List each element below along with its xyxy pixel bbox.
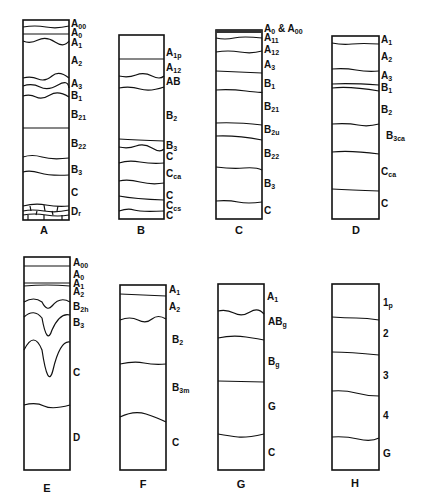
svg-text:B2: B2 (172, 334, 183, 346)
profile-f-caption: F (140, 478, 147, 490)
svg-text:1p: 1p (383, 297, 393, 310)
soil-profiles-figure: A00 A0 A1 A2 A3 B1 B21 B22 B3 C Dr A A1p… (0, 0, 425, 501)
svg-text:A12: A12 (166, 62, 181, 74)
profile-f-column (120, 285, 166, 470)
svg-text:A3: A3 (381, 70, 392, 82)
svg-text:B3: B3 (71, 164, 82, 176)
profile-a: A00 A0 A1 A2 A3 B1 B21 B22 B3 C Dr A (23, 18, 86, 236)
svg-text:C: C (166, 210, 173, 221)
profile-d: A1 A2 A3 B1 B2 B3ca Cca C D (332, 34, 405, 236)
svg-text:A00: A00 (73, 257, 88, 269)
profile-h-column (332, 284, 379, 470)
svg-text:C: C (71, 187, 78, 198)
svg-text:G: G (383, 448, 391, 459)
svg-text:A3: A3 (71, 78, 82, 90)
svg-text:B1: B1 (71, 90, 82, 102)
profile-f: A1 A2 B2 B3m C F (120, 284, 189, 490)
svg-text:C: C (268, 447, 275, 458)
svg-text:B2u: B2u (264, 124, 279, 136)
bedrock-pattern (23, 204, 69, 220)
svg-text:A1: A1 (169, 284, 180, 296)
profile-e: A00 A0 A1 A2 B2h B3 C D E (24, 257, 88, 494)
profile-e-column (24, 257, 70, 470)
profile-g-caption: G (237, 478, 246, 490)
svg-text:A2: A2 (71, 55, 82, 67)
svg-text:Cca: Cca (381, 166, 396, 178)
svg-text:C: C (166, 151, 173, 162)
svg-text:B1: B1 (381, 82, 392, 94)
svg-text:C: C (264, 205, 271, 216)
svg-text:3: 3 (383, 370, 389, 381)
profile-d-caption: D (352, 224, 360, 236)
svg-text:Cca: Cca (166, 168, 181, 180)
svg-text:B2: B2 (381, 104, 392, 116)
svg-text:A1: A1 (381, 34, 392, 46)
profile-e-caption: E (43, 482, 50, 494)
svg-text:D: D (73, 432, 80, 443)
profile-h: 1p 2 3 4 G H (332, 284, 393, 489)
svg-text:A3: A3 (264, 59, 275, 71)
profile-c-caption: C (235, 224, 243, 236)
profile-d-column (332, 36, 379, 219)
svg-text:AB: AB (166, 76, 180, 87)
profile-b-caption: B (137, 224, 145, 236)
svg-text:2: 2 (383, 328, 389, 339)
svg-text:B21: B21 (264, 101, 279, 113)
svg-text:ABg: ABg (268, 316, 287, 329)
profile-g-column (218, 284, 264, 470)
profile-a-caption: A (40, 224, 48, 236)
svg-text:A2: A2 (381, 51, 392, 63)
svg-text:C: C (172, 437, 179, 448)
svg-text:A12: A12 (264, 44, 279, 56)
profile-c: A0 & A00 A11 A12 A3 B1 B21 B2u B22 B3 C … (216, 23, 303, 236)
svg-text:B22: B22 (71, 138, 86, 150)
svg-text:A2: A2 (169, 301, 180, 313)
svg-text:B3: B3 (264, 178, 275, 190)
svg-text:Dr: Dr (71, 206, 81, 217)
svg-text:B22: B22 (264, 148, 279, 160)
organic-layer-fill (216, 30, 262, 33)
svg-text:B2: B2 (166, 110, 177, 122)
svg-text:A1p: A1p (166, 47, 181, 60)
svg-text:B2h: B2h (73, 301, 88, 313)
svg-text:4: 4 (383, 410, 389, 421)
svg-text:B3: B3 (73, 317, 84, 329)
svg-text:Bg: Bg (268, 356, 280, 369)
svg-text:B21: B21 (71, 109, 86, 121)
profile-g: A1 ABg Bg G C G (218, 284, 287, 490)
svg-text:A1: A1 (267, 291, 278, 303)
profile-b: A1p A12 AB B2 B3 C Cca C Ccs C B (119, 35, 181, 236)
profile-a-column (23, 20, 69, 220)
svg-text:B3m: B3m (172, 382, 189, 394)
svg-text:B3ca: B3ca (386, 130, 405, 142)
svg-text:B1: B1 (264, 78, 275, 90)
svg-text:C: C (73, 367, 80, 378)
svg-text:G: G (268, 401, 276, 412)
profile-h-caption: H (351, 477, 359, 489)
profile-b-column (119, 35, 164, 219)
svg-text:C: C (381, 198, 388, 209)
